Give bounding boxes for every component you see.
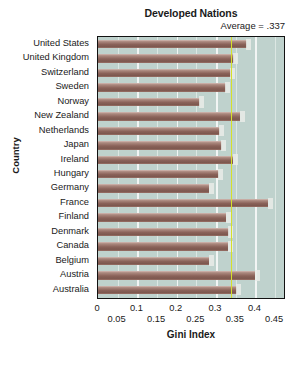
bar-row: [98, 109, 240, 123]
y-tick-label: Norway: [0, 96, 92, 106]
x-axis-label: Gini Index: [97, 329, 285, 340]
bar-row: [98, 254, 209, 268]
bar-row: [98, 181, 209, 195]
bar-row: [98, 51, 234, 65]
bar-row: [98, 239, 228, 253]
bar: [98, 40, 247, 48]
x-tick-label: 0: [82, 303, 112, 313]
y-tick-label: France: [0, 197, 92, 207]
y-tick-label: Canada: [0, 240, 92, 250]
bar-row: [98, 196, 268, 210]
y-tick-label: Sweden: [0, 81, 92, 91]
y-tick-label: United States: [0, 38, 92, 48]
bar-row: [98, 37, 247, 51]
y-tick-label: Ireland: [0, 154, 92, 164]
chart-title: Developed Nations: [96, 7, 286, 19]
gridline: [255, 37, 257, 298]
x-tick-label: 0.05: [102, 314, 132, 324]
bar: [98, 112, 240, 120]
bar: [98, 127, 220, 135]
bar-row: [98, 95, 200, 109]
bar-row: [98, 167, 219, 181]
bar: [98, 184, 209, 192]
bar-row: [98, 225, 229, 239]
bar: [98, 98, 200, 106]
y-tick-label: Japan: [0, 139, 92, 149]
y-tick-label: Finland: [0, 211, 92, 221]
average-annotation: Average = .337: [96, 20, 288, 31]
bar: [98, 286, 237, 294]
y-tick-label: Switzerland: [0, 67, 92, 77]
y-tick-label: Austria: [0, 269, 92, 279]
bar-row: [98, 66, 231, 80]
bar-row: [98, 210, 226, 224]
bar: [98, 69, 231, 77]
y-tick-label: Netherlands: [0, 125, 92, 135]
x-tick-label: 0.45: [259, 314, 289, 324]
y-tick-label: Denmark: [0, 226, 92, 236]
bar: [98, 199, 268, 207]
bar-row: [98, 138, 222, 152]
x-tick-label: 0.15: [141, 314, 171, 324]
x-tick-label: 0.2: [161, 303, 191, 313]
y-tick-label: United Kingdom: [0, 52, 92, 62]
bar-row: [98, 153, 233, 167]
x-tick-label: 0.25: [180, 314, 210, 324]
y-tick-label: New Zealand: [0, 110, 92, 120]
bar: [98, 170, 219, 178]
x-tick-label: 0.35: [220, 314, 250, 324]
bar-row: [98, 283, 237, 297]
bar: [98, 156, 233, 164]
bar: [98, 213, 226, 221]
plot-area: [97, 36, 285, 299]
y-tick-label: Belgium: [0, 255, 92, 265]
plot-inner: [98, 37, 284, 298]
gridline: [236, 37, 237, 298]
x-tick-label: 0.4: [239, 303, 269, 313]
x-tick-label: 0.3: [200, 303, 230, 313]
y-tick-label: Australia: [0, 284, 92, 294]
bar: [98, 242, 228, 250]
bar: [98, 83, 226, 91]
x-tick-label: 0.1: [121, 303, 151, 313]
bar: [98, 54, 234, 62]
gridline: [275, 37, 276, 298]
bar: [98, 257, 209, 265]
chart-figure: Developed Nations Average = .337 Country…: [0, 0, 305, 365]
bar-row: [98, 80, 226, 94]
bar-row: [98, 124, 220, 138]
y-tick-label: Hungary: [0, 168, 92, 178]
bar: [98, 228, 229, 236]
y-tick-label: Germany: [0, 182, 92, 192]
bar: [98, 141, 222, 149]
average-reference-line: [231, 37, 233, 298]
